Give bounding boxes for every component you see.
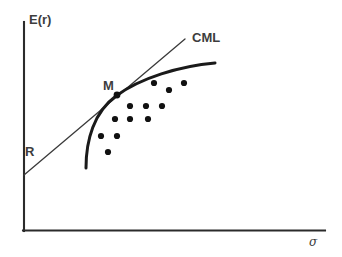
- market-portfolio-label: M: [103, 79, 114, 92]
- asset-dot: [151, 80, 157, 86]
- x-axis-label: σ: [309, 236, 317, 248]
- asset-dot: [127, 103, 133, 109]
- asset-dot: [114, 133, 120, 139]
- asset-dot: [105, 149, 111, 155]
- risk-free-rate-label: R: [25, 145, 34, 158]
- chart-canvas: [0, 0, 342, 257]
- asset-dot: [181, 80, 187, 86]
- asset-dot: [127, 116, 133, 122]
- asset-dot: [98, 133, 104, 139]
- cml-diagram-figure: E(r) CML M R σ: [0, 0, 342, 257]
- tangency-point-marker: [114, 92, 121, 99]
- asset-dot: [145, 116, 151, 122]
- asset-dot: [159, 103, 165, 109]
- y-axis-label: E(r): [29, 13, 51, 26]
- asset-dot: [112, 116, 118, 122]
- cml-label: CML: [192, 31, 220, 44]
- asset-dot: [166, 87, 172, 93]
- asset-dot: [143, 103, 149, 109]
